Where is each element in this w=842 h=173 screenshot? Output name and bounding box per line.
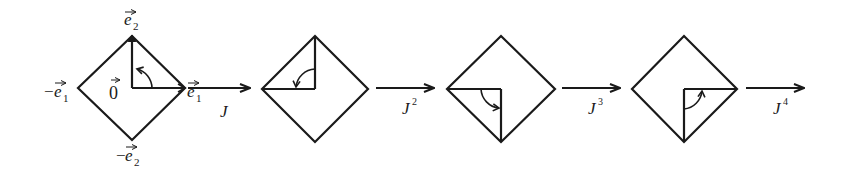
svg-text:1: 1 (63, 92, 69, 104)
transform-arrow-J4: J 4 (746, 88, 804, 118)
rotation-arc-icon (684, 91, 702, 109)
diamond-after-J (262, 36, 368, 142)
svg-text:4: 4 (783, 96, 788, 107)
label-e1: e 1 (187, 82, 202, 104)
svg-text:J: J (402, 99, 411, 118)
svg-text:J: J (588, 99, 597, 118)
rotation-diagram: e 2 − e 2 − e 1 e 1 0 J (0, 0, 842, 173)
diamond-after-J2 (447, 36, 555, 142)
rotation-arc-icon (296, 69, 315, 87)
svg-text:0: 0 (109, 83, 118, 103)
svg-text:−: − (44, 82, 54, 101)
svg-text:e: e (187, 82, 195, 101)
diamond-after-J3 (632, 36, 737, 142)
svg-text:2: 2 (134, 156, 140, 168)
rotation-arc-icon (481, 89, 499, 108)
rotation-arc-icon (137, 69, 152, 88)
label-neg-e2: − e 2 (116, 146, 140, 168)
svg-text:2: 2 (133, 20, 139, 32)
transform-arrow-J2: J 2 (376, 88, 434, 118)
svg-text:2: 2 (412, 96, 417, 107)
label-origin: 0 (109, 80, 120, 103)
svg-text:J: J (220, 102, 229, 121)
svg-text:e: e (125, 146, 133, 165)
svg-text:e: e (124, 10, 132, 29)
svg-text:3: 3 (598, 96, 603, 107)
svg-text:1: 1 (196, 92, 202, 104)
diamond-initial: e 2 − e 2 − e 1 e 1 0 (44, 10, 202, 168)
transform-arrow-J3: J 3 (562, 88, 620, 118)
svg-text:J: J (773, 99, 782, 118)
svg-text:e: e (54, 82, 62, 101)
label-neg-e1: − e 1 (44, 82, 69, 104)
label-e2: e 2 (124, 10, 139, 32)
